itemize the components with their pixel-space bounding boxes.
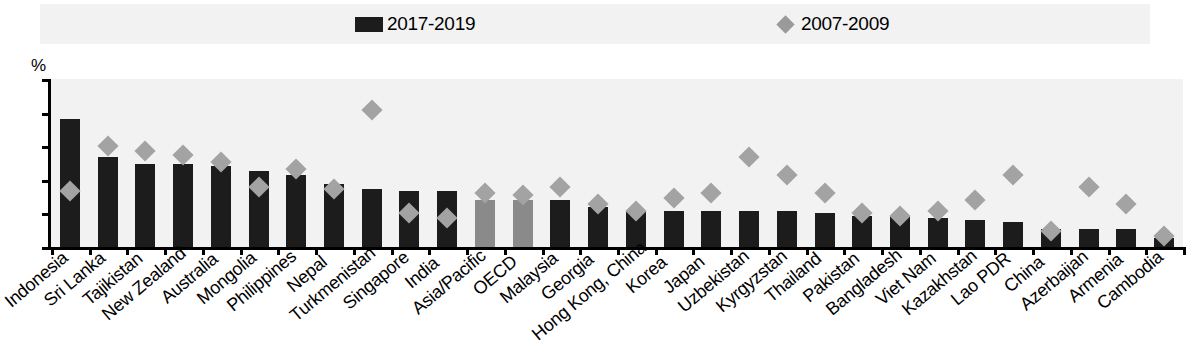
y-axis-tick-mark [42, 79, 51, 82]
bar-tajikistan [135, 164, 155, 247]
x-axis-labels: IndonesiaSri LankaTajikistanNew ZealandA… [48, 250, 1192, 353]
legend-label-2017-2019: 2017-2019 [387, 13, 475, 35]
bar-philippines [286, 175, 306, 247]
y-axis-tick-mark [42, 146, 51, 149]
marker-malaysia [550, 176, 571, 197]
bar-australia [211, 166, 231, 247]
marker-new-zealand [172, 145, 193, 166]
marker-kyrgyzstan [776, 165, 797, 186]
marker-japan [701, 183, 722, 204]
bar-kyrgyzstan [777, 211, 797, 247]
marker-tajikistan [135, 140, 156, 161]
marker-armenia [1116, 194, 1137, 215]
marker-sri-lanka [97, 136, 118, 157]
marker-uzbekistan [738, 147, 759, 168]
y-axis-unit-label: % [31, 56, 46, 76]
chart-legend: 2017-2019 2007-2009 [40, 4, 1150, 44]
bar-new-zealand [173, 164, 193, 247]
bar-armenia [1116, 229, 1136, 247]
y-axis-tick-mark [42, 113, 51, 116]
bar-japan [701, 211, 721, 247]
marker-korea [663, 187, 684, 208]
y-axis-tick-mark [42, 180, 51, 183]
bar-viet-nam [928, 218, 948, 247]
bar-sri-lanka [98, 157, 118, 247]
marker-turkmenistan [361, 100, 382, 121]
plot-area: 01530456075 [48, 79, 1183, 250]
legend-item-2017-2019: 2017-2019 [355, 13, 475, 35]
y-axis-tick-mark [42, 213, 51, 216]
legend-item-2007-2009: 2007-2009 [775, 13, 889, 35]
bar-oecd [513, 200, 533, 247]
legend-diamond-swatch-icon [776, 15, 794, 33]
bar-thailand [815, 213, 835, 247]
chart-figure: 2017-2019 2007-2009 % 01530456075 Indone… [0, 0, 1192, 353]
bar-uzbekistan [739, 211, 759, 247]
bar-malaysia [550, 200, 570, 247]
marker-lao-pdr [1003, 165, 1024, 186]
bar-korea [664, 211, 684, 247]
marker-thailand [814, 183, 835, 204]
legend-bar-swatch-icon [355, 17, 383, 32]
bar-kazakhstan [965, 220, 985, 247]
bar-asia-pacific [475, 200, 495, 247]
marker-azerbaijan [1078, 176, 1099, 197]
legend-label-2007-2009: 2007-2009 [801, 13, 889, 35]
bar-lao-pdr [1003, 222, 1023, 247]
marker-kazakhstan [965, 189, 986, 210]
bar-azerbaijan [1079, 229, 1099, 247]
bar-turkmenistan [362, 189, 382, 247]
